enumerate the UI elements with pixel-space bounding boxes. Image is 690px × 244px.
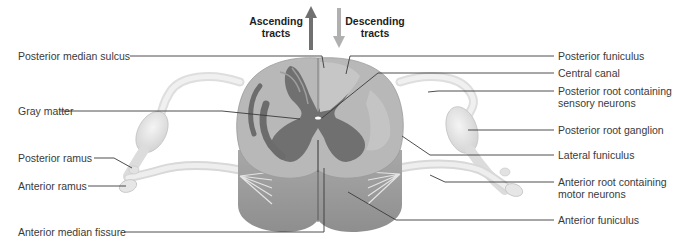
posterior-root-line2: sensory neurons [558, 97, 672, 109]
label-gray-matter: Gray matter [18, 105, 73, 117]
label-lateral-funiculus: Lateral funiculus [558, 149, 634, 161]
ascending-arrow [305, 6, 317, 50]
posterior-root-line1: Posterior root containing [558, 85, 672, 97]
descending-label-line1: Descending [344, 15, 406, 27]
ascending-label-line2: tracts [248, 27, 304, 39]
anterior-root-line2: motor neurons [558, 188, 667, 200]
anterior-root-line1: Anterior root containing [558, 176, 667, 188]
label-central-canal: Central canal [558, 67, 620, 79]
label-posterior-root-ganglion: Posterior root ganglion [558, 124, 664, 136]
ascending-label-line1: Ascending [248, 15, 304, 27]
spinal-cord [237, 58, 404, 232]
label-posterior-funiculus: Posterior funiculus [558, 50, 644, 62]
label-posterior-root: Posterior root containing sensory neuron… [558, 85, 672, 109]
left-spinal-nerve [117, 77, 240, 195]
label-posterior-ramus: Posterior ramus [18, 152, 92, 164]
descending-label-line2: tracts [344, 27, 406, 39]
descending-tracts-label: Descending tracts [344, 15, 406, 39]
right-spinal-nerve [400, 77, 525, 199]
label-anterior-root: Anterior root containing motor neurons [558, 176, 667, 200]
label-posterior-median-sulcus: Posterior median sulcus [18, 50, 130, 62]
label-anterior-funiculus: Anterior funiculus [558, 214, 639, 226]
label-anterior-ramus: Anterior ramus [18, 180, 87, 192]
spinal-cord-diagram: Ascending tracts Descending tracts Poste… [0, 0, 690, 244]
central-canal-shape [315, 116, 321, 119]
ascending-tracts-label: Ascending tracts [248, 15, 304, 39]
label-anterior-median-fissure: Anterior median fissure [18, 226, 126, 238]
